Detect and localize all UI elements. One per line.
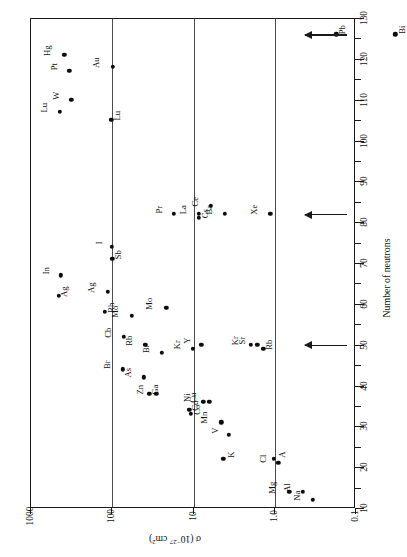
- data-point-label: Br: [103, 361, 112, 370]
- sigma-tick-label: 1.0: [269, 510, 279, 522]
- data-point-label: Ce: [190, 197, 199, 207]
- neutron-tick-label: 80: [359, 217, 369, 226]
- gridline-decade: [275, 19, 276, 507]
- neutron-tick-label: 40: [359, 381, 369, 390]
- data-point-label: I: [95, 241, 104, 244]
- sigma-title-close: ): [149, 534, 152, 545]
- neutron-tick-minor: [355, 161, 361, 162]
- data-point-label: Na: [293, 491, 302, 501]
- neutron-tick-minor: [355, 365, 361, 366]
- sigma-title-exponent2: 2: [152, 538, 156, 546]
- data-point-label: V: [210, 427, 219, 433]
- plot-area: [30, 18, 355, 508]
- neutron-tick-minor: [355, 488, 361, 489]
- data-point-label: La: [179, 205, 188, 214]
- data-point-label: Zn: [136, 385, 145, 395]
- sigma-tick-label: 10: [188, 511, 198, 520]
- neutron-tick-label: 120: [359, 52, 369, 66]
- neutron-tick-label: 60: [359, 299, 369, 308]
- neutron-tick-label: 70: [359, 258, 369, 267]
- neutron-tick-label: 20: [359, 462, 369, 471]
- data-point-label: Pt: [50, 63, 59, 70]
- data-point-label: Rb: [265, 339, 274, 349]
- neutron-tick-minor: [355, 120, 361, 121]
- neutron-tick-label: 30: [359, 422, 369, 431]
- data-point-label: Sr: [238, 337, 247, 345]
- data-point-label: Lu: [113, 111, 122, 121]
- data-point-label: Ag: [60, 286, 69, 297]
- data-point-label: Al: [283, 483, 292, 492]
- data-point-label: Xe: [250, 205, 259, 215]
- data-point-label: Kr: [173, 340, 182, 349]
- neutron-tick-minor: [355, 447, 361, 448]
- data-point-label: Ag: [87, 282, 96, 293]
- data-point-label: Br: [142, 344, 151, 353]
- data-point-label: In: [42, 267, 51, 274]
- data-point-label: Hg: [44, 45, 53, 56]
- neutron-tick-minor: [355, 38, 361, 39]
- data-point-label: Rb: [125, 335, 134, 345]
- neutron-tick-minor: [355, 406, 361, 407]
- data-point-label: K: [227, 452, 236, 458]
- data-point-label: Lu: [40, 103, 49, 113]
- neutron-tick-minor: [355, 202, 361, 203]
- sigma-tick-label: 100: [106, 509, 116, 523]
- magic-number-arrow: [305, 34, 347, 35]
- sigma-axis-title: σ (10−27 cm2): [149, 534, 201, 546]
- data-point-label: Pr: [155, 206, 164, 214]
- data-point-label: W: [52, 91, 61, 99]
- neutron-tick-minor: [355, 283, 361, 284]
- magic-number-arrow: [305, 345, 347, 346]
- data-point-label: Cl: [259, 455, 268, 463]
- neutron-tick-minor: [355, 243, 361, 244]
- neutron-axis-title: Number of neutrons: [381, 239, 392, 318]
- sigma-title-exponent: −27: [170, 538, 181, 546]
- sigma-tick-label: 1000: [25, 507, 35, 526]
- data-point-label: Cs: [201, 209, 210, 218]
- data-point-label: A: [277, 452, 286, 458]
- data-point-label: Mg: [268, 481, 277, 493]
- data-point-label: Y: [183, 337, 192, 343]
- data-point-label: Sb: [114, 250, 123, 259]
- neutron-tick-label: 90: [359, 177, 369, 186]
- gridline-decade: [112, 19, 113, 507]
- data-point-label: Mo: [110, 306, 119, 318]
- data-point-label: Cb: [104, 327, 113, 337]
- data-point-label: Mo: [145, 298, 154, 310]
- neutron-tick-minor: [355, 324, 361, 325]
- neutron-tick-label: 10: [359, 503, 369, 512]
- neutron-tick-label: 110: [359, 93, 369, 107]
- neutron-tick-label: 130: [359, 11, 369, 25]
- data-point-label: Mn: [200, 412, 209, 424]
- gridline-decade: [194, 19, 195, 507]
- neutron-tick-label: 100: [359, 133, 369, 147]
- data-point-label: Pb: [338, 25, 347, 34]
- data-point-label: Au: [92, 57, 101, 68]
- sigma-title-suffix: cm: [156, 534, 170, 545]
- sigma-title-prefix: σ (10: [181, 534, 201, 545]
- magic-number-arrow: [305, 214, 347, 215]
- neutron-tick-minor: [355, 79, 361, 80]
- data-point-label: As: [124, 368, 133, 378]
- neutron-tick-label: 50: [359, 340, 369, 349]
- data-point-label: Bi: [398, 26, 407, 34]
